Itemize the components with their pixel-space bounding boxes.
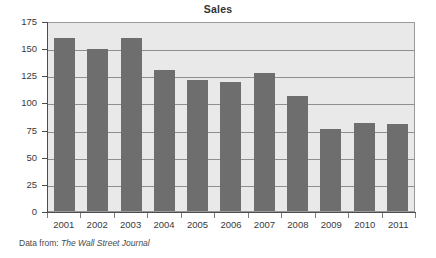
- y-tick-mark: [42, 158, 47, 159]
- y-tick-label: 125: [21, 71, 37, 81]
- x-tick-label: 2003: [114, 219, 147, 230]
- x-tick-mark: [181, 213, 182, 218]
- bar: [54, 38, 75, 211]
- bar-chart-figure: Sales 0255075100125150175 20012002200320…: [0, 0, 436, 258]
- x-tick-mark: [147, 213, 148, 218]
- bar: [187, 80, 208, 211]
- y-tick-label: 100: [21, 98, 37, 108]
- x-tick-mark: [415, 213, 416, 218]
- y-tick-label: 0: [32, 207, 37, 217]
- bar: [254, 73, 275, 211]
- caption-prefix: Data from:: [19, 238, 59, 248]
- bar: [220, 82, 241, 211]
- y-tick-mark: [42, 76, 47, 77]
- y-tick-label: 175: [21, 17, 37, 27]
- x-tick-label: 2011: [382, 219, 415, 230]
- x-tick-mark: [315, 213, 316, 218]
- x-tick-mark: [80, 213, 81, 218]
- plot-area: [47, 22, 415, 212]
- chart-title: Sales: [0, 3, 436, 15]
- x-tick-label: 2009: [315, 219, 348, 230]
- bar: [154, 70, 175, 211]
- x-tick-mark: [214, 213, 215, 218]
- bar: [87, 49, 108, 211]
- source-caption: Data from: The Wall Street Journal: [19, 238, 150, 248]
- x-tick-mark: [248, 213, 249, 218]
- y-tick-mark: [42, 103, 47, 104]
- x-tick-label: 2008: [281, 219, 314, 230]
- x-tick-label: 2010: [348, 219, 381, 230]
- bar: [354, 123, 375, 211]
- y-tick-label: 75: [26, 126, 37, 136]
- bar: [387, 124, 408, 211]
- x-tick-label: 2005: [181, 219, 214, 230]
- x-tick-mark: [382, 213, 383, 218]
- x-tick-label: 2006: [214, 219, 247, 230]
- x-tick-label: 2001: [47, 219, 80, 230]
- y-tick-mark: [42, 49, 47, 50]
- y-tick-mark: [42, 22, 47, 23]
- y-tick-label: 150: [21, 44, 37, 54]
- x-tick-mark: [348, 213, 349, 218]
- x-tick-label: 2007: [248, 219, 281, 230]
- caption-source-name: The Wall Street Journal: [61, 238, 150, 248]
- y-tick-label: 50: [26, 153, 37, 163]
- x-axis-labels: 2001200220032004200520062007200820092010…: [47, 219, 415, 233]
- bar: [287, 96, 308, 211]
- bar-series: [48, 23, 414, 211]
- x-tick-mark: [281, 213, 282, 218]
- y-axis-line: [47, 22, 48, 212]
- x-tick-label: 2004: [148, 219, 181, 230]
- bar: [121, 38, 142, 211]
- y-tick-mark: [42, 131, 47, 132]
- x-tick-mark: [114, 213, 115, 218]
- y-tick-label: 25: [26, 180, 37, 190]
- bar: [320, 129, 341, 212]
- x-axis-line: [47, 212, 416, 213]
- x-tick-mark: [47, 213, 48, 218]
- x-tick-label: 2002: [81, 219, 114, 230]
- y-tick-mark: [42, 185, 47, 186]
